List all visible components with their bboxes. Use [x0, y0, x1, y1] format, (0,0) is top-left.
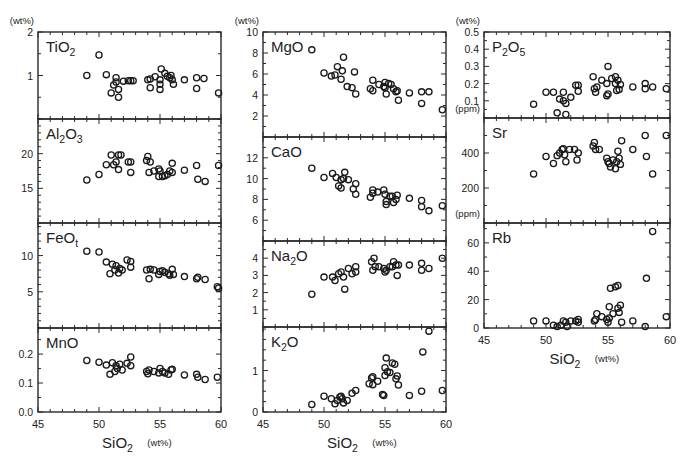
data-point [128, 354, 134, 360]
data-point [419, 100, 425, 106]
data-point [531, 171, 537, 177]
data-point [419, 204, 425, 210]
data-point [406, 195, 412, 201]
y-tick-label: 8 [252, 47, 258, 59]
data-point [420, 349, 426, 355]
data-point [340, 54, 346, 60]
panel-cao: 681012CaO [246, 137, 446, 241]
y-tick-label: 200 [461, 182, 479, 194]
data-point [202, 376, 208, 382]
y-tick-label: 3 [252, 269, 258, 281]
data-point [96, 52, 102, 58]
data-point [115, 86, 121, 92]
x-tick-label: 60 [664, 334, 676, 346]
data-point [202, 178, 208, 184]
data-point [419, 89, 425, 95]
y-tick-label: 40 [467, 265, 479, 277]
panel-mgo: 246810MgO(wt%) [235, 15, 446, 137]
data-point [419, 267, 425, 273]
data-point [309, 401, 315, 407]
data-point [195, 176, 201, 182]
data-point [590, 74, 596, 80]
unit-label: (ppm) [455, 208, 480, 219]
y-tick-label: 2 [252, 110, 258, 122]
data-point [339, 68, 345, 74]
y-tick-label: 6 [252, 68, 258, 80]
data-point [650, 171, 656, 177]
data-point [543, 153, 549, 159]
data-point [103, 162, 109, 168]
x-tick-label: 45 [257, 418, 269, 430]
data-point [610, 311, 616, 317]
data-point [309, 291, 315, 297]
y-tick-label: 0 [473, 322, 479, 334]
panel-label: Sr [492, 124, 507, 141]
data-point [332, 72, 338, 78]
data-point [338, 76, 344, 82]
y-tick-label: 8 [252, 193, 258, 205]
data-point [605, 91, 611, 97]
data-point [630, 146, 636, 152]
panel-p2o5: 0.10.20.30.40.5P2O5(wt%) [456, 15, 670, 118]
data-point [616, 309, 622, 315]
data-point [575, 150, 581, 156]
data-point [406, 262, 412, 268]
panel-k2o: 01K2O [252, 327, 446, 418]
data-point [321, 393, 327, 399]
x-tick-label: 55 [379, 418, 391, 430]
data-point [340, 274, 346, 280]
data-point [383, 355, 389, 361]
y-tick-label: 6 [252, 214, 258, 226]
x-tick-label: 55 [602, 334, 614, 346]
data-point [383, 91, 389, 97]
y-tick-label: 4 [252, 252, 258, 264]
data-point [650, 228, 656, 234]
panel-frame [263, 241, 446, 327]
x-axis-title: SiO2 [102, 434, 133, 454]
data-point [351, 69, 357, 75]
y-tick-label: 0.2 [18, 348, 33, 360]
data-point [128, 169, 134, 175]
data-point [605, 63, 611, 69]
unit-label: (wt%) [235, 15, 259, 26]
data-point [353, 191, 359, 197]
data-point [419, 260, 425, 266]
x-axis-unit: (wt%) [372, 437, 396, 448]
data-point [181, 167, 187, 173]
panel-label: MnO [46, 334, 79, 351]
x-axis-title: SiO2 [550, 350, 581, 370]
x-tick-label: 45 [478, 334, 490, 346]
data-point [531, 318, 537, 324]
data-point [194, 162, 200, 168]
data-point [663, 314, 669, 320]
data-point [406, 392, 412, 398]
data-point [606, 304, 612, 310]
x-tick-label: 50 [318, 418, 330, 430]
y-tick-label: 2 [27, 26, 33, 38]
x-tick-label: 50 [93, 418, 105, 430]
data-point [84, 248, 90, 254]
panel-al2o3: 1520Al2O3 [21, 119, 221, 223]
data-point [201, 75, 207, 81]
data-point [543, 89, 549, 95]
data-point [439, 203, 445, 209]
data-point [643, 153, 649, 159]
data-point [643, 275, 649, 281]
data-point [619, 319, 625, 325]
data-point [194, 75, 200, 81]
panel-label: P2O5 [492, 38, 526, 58]
data-point [214, 374, 220, 380]
panel-frame [484, 223, 670, 328]
data-point [563, 159, 569, 165]
data-point [381, 187, 387, 193]
x-axis-title: SiO2 [327, 434, 358, 454]
panel-label: Al2O3 [46, 125, 83, 145]
data-point [96, 249, 102, 255]
data-point [342, 286, 348, 292]
data-point [169, 160, 175, 166]
harker-diagram-figure: 12TiO2(wt%)1520Al2O3510FeOt0.00.10.2MnO4… [0, 0, 685, 456]
panel-tio2: 12TiO2(wt%) [10, 15, 222, 119]
y-tick-label: 0.5 [464, 26, 479, 38]
panel-label: K2O [271, 333, 299, 353]
data-point [419, 197, 425, 203]
